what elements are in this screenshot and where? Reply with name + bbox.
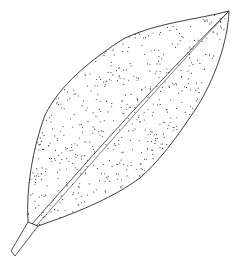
stipple-shading <box>24 9 229 229</box>
leaf-illustration: Stippled botanical line drawing of a sin… <box>0 0 244 271</box>
leaf-drawing <box>0 0 244 271</box>
petiole <box>11 222 38 256</box>
midrib-lower <box>36 11 229 226</box>
